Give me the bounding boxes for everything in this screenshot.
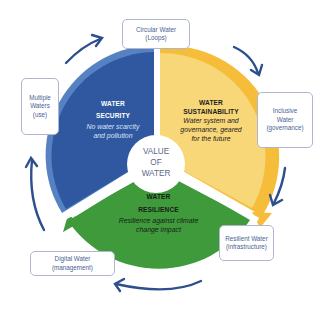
water-resilience-title-1: WATER xyxy=(106,190,211,203)
arrow-circular-to-inclusive xyxy=(234,47,258,73)
water-resilience-title-2: RESILIENCE xyxy=(106,203,211,216)
water-security-desc-1: No water scarcity xyxy=(68,122,158,131)
water-security-desc-2: and pollution xyxy=(68,131,158,140)
resilient-water-line-2: (infrastructure) xyxy=(226,243,267,252)
multiple-waters-box: Multiple Waters (use) xyxy=(21,78,59,135)
value-of-water-diagram: WATER SECURITY No water scarcity and pol… xyxy=(0,0,329,311)
arrow-resilient-to-digital xyxy=(116,281,201,289)
circular-water-line-2: (Loops) xyxy=(145,34,166,43)
water-sustainability-text: WATER SUSTAINABILITY Water system and go… xyxy=(166,98,256,143)
water-sustainability-desc-1: Water system and xyxy=(166,116,256,125)
water-sustainability-title-2: SUSTAINABILITY xyxy=(166,107,256,116)
resilient-water-box: Resilient Water (infrastructure) xyxy=(219,225,274,261)
value-of-water-label: VALUE OF WATER xyxy=(131,146,181,179)
center-line-3: WATER xyxy=(131,168,181,179)
water-resilience-desc-1: Resilience against climate xyxy=(106,216,211,225)
water-sustainability-desc-2: governance, geared xyxy=(166,125,256,134)
center-line-1: VALUE xyxy=(131,146,181,157)
water-resilience-desc-2: change impact xyxy=(106,225,211,234)
water-sustainability-desc-3: for the future xyxy=(166,134,256,143)
water-security-text: WATER SECURITY No water scarcity and pol… xyxy=(68,97,158,140)
digital-water-line-1: Digital Water xyxy=(55,255,91,264)
inclusive-water-line-3: (governance) xyxy=(266,124,303,133)
inclusive-water-line-2: Water xyxy=(277,116,294,125)
arrow-digital-to-multiple xyxy=(31,160,44,230)
arrow-multiple-to-circular xyxy=(66,39,100,63)
multiple-waters-line-2: Waters xyxy=(30,102,50,111)
water-sustainability-title-1: WATER xyxy=(166,98,256,107)
circular-water-line-1: Circular Water xyxy=(136,26,176,35)
center-line-2: OF xyxy=(131,157,181,168)
digital-water-box: Digital Water (management) xyxy=(30,251,115,276)
water-security-title-2: SECURITY xyxy=(68,109,158,122)
inclusive-water-line-1: Inclusive xyxy=(273,107,298,116)
inclusive-water-box: Inclusive Water (governance) xyxy=(257,92,313,148)
resilient-water-line-1: Resilient Water xyxy=(225,235,267,244)
digital-water-line-2: (management) xyxy=(52,264,93,273)
circular-water-box: Circular Water (Loops) xyxy=(122,19,190,49)
multiple-waters-line-1: Multiple xyxy=(29,94,51,103)
multiple-waters-line-3: (use) xyxy=(33,111,47,120)
water-resilience-text: WATER RESILIENCE Resilience against clim… xyxy=(106,190,211,234)
